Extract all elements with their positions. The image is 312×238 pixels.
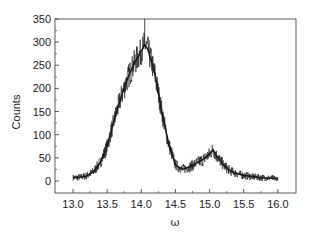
- x-axis: 13.013.514.014.515.015.516.0: [62, 189, 288, 210]
- x-tick-label: 15.5: [233, 198, 254, 210]
- x-tick-label: 16.0: [267, 198, 288, 210]
- y-tick-label: 250: [33, 59, 51, 71]
- counts-core-line: [73, 44, 278, 178]
- x-axis-label: ω: [171, 216, 180, 229]
- y-tick-label: 50: [39, 152, 51, 164]
- counts-line: [73, 33, 278, 181]
- y-tick-label: 0: [45, 175, 51, 187]
- y-tick-label: 350: [33, 13, 51, 25]
- xrd-rocking-curve-chart: 050100150200250300350 13.013.514.014.515…: [0, 0, 312, 238]
- x-tick-label: 13.0: [62, 198, 83, 210]
- x-tick-label: 14.0: [131, 198, 152, 210]
- y-tick-label: 100: [33, 129, 51, 141]
- y-tick-label: 300: [33, 36, 51, 48]
- data-series: [73, 19, 278, 181]
- x-tick-label: 15.0: [199, 198, 220, 210]
- y-tick-label: 200: [33, 82, 51, 94]
- y-tick-label: 150: [33, 106, 51, 118]
- x-tick-label: 14.5: [165, 198, 186, 210]
- x-tick-label: 13.5: [96, 198, 117, 210]
- y-axis-label: Counts: [10, 94, 22, 129]
